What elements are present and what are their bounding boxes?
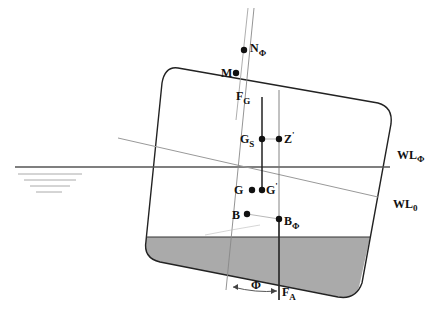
label-wl-phi: WLΦ bbox=[397, 148, 425, 164]
label-m: M bbox=[221, 66, 232, 80]
point-g-prime bbox=[259, 187, 265, 193]
label-phi-angle: Φ bbox=[251, 278, 261, 292]
label-b-phi: BΦ bbox=[284, 214, 300, 231]
point-m bbox=[233, 70, 239, 76]
point-g bbox=[249, 187, 255, 193]
label-g-prime: G' bbox=[266, 181, 278, 197]
label-z-prime: Z' bbox=[284, 130, 295, 146]
label-g: G bbox=[234, 183, 243, 197]
point-n-phi bbox=[241, 47, 247, 53]
label-n-phi: NΦ bbox=[250, 41, 267, 58]
point-z-prime bbox=[276, 136, 282, 142]
label-wl-zero: WL0 bbox=[393, 197, 418, 213]
point-b bbox=[244, 211, 250, 217]
label-g-s: GS bbox=[240, 132, 254, 149]
water-ripples-icon bbox=[18, 174, 82, 192]
point-g-s bbox=[259, 136, 265, 142]
ship-stability-diagram: NΦ M FG GS Z' G G' B BΦ Φ FA WLΦ WL0 bbox=[0, 0, 443, 311]
label-b: B bbox=[232, 208, 240, 222]
b-to-bphi-connector bbox=[247, 214, 279, 219]
point-b-phi bbox=[276, 216, 282, 222]
diagram-canvas: NΦ M FG GS Z' G G' B BΦ Φ FA WLΦ WL0 bbox=[0, 0, 443, 311]
